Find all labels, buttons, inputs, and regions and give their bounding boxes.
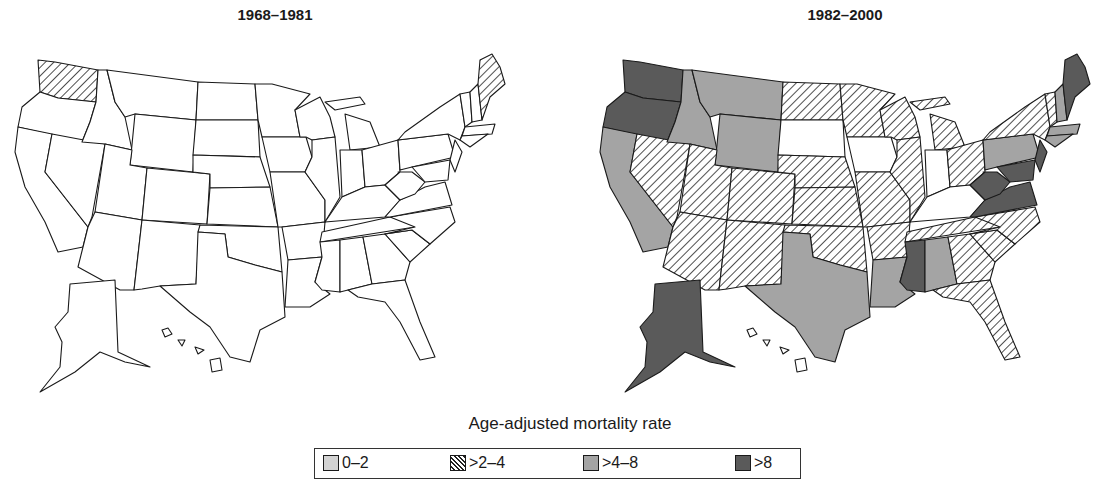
- state-AK: [625, 280, 735, 392]
- swatch-light-gray-icon: [323, 455, 339, 471]
- state-KS: [207, 187, 278, 227]
- state-NY: [398, 94, 465, 140]
- legend-label: >4–8: [602, 454, 638, 472]
- state-ME: [478, 54, 505, 120]
- state-FL: [348, 280, 435, 360]
- state-AR: [867, 222, 910, 260]
- swatch-dark-gray-icon: [735, 455, 751, 471]
- state-CT-RI: [460, 134, 488, 147]
- state-AR: [282, 222, 325, 260]
- state-IA: [262, 137, 312, 172]
- map-title-1968-1981: 1968–1981: [200, 6, 350, 23]
- legend-label: >8: [754, 454, 772, 472]
- state-SD: [778, 120, 845, 157]
- legend-title: Age-adjusted mortality rate: [400, 414, 740, 434]
- legend-label: 0–2: [342, 454, 369, 472]
- us-map-1982-2000: [585, 22, 1107, 402]
- legend-item-gt-8: >8: [735, 454, 772, 472]
- legend-item-2-4: >2–4: [450, 454, 505, 472]
- swatch-medium-gray-icon: [583, 455, 599, 471]
- state-CO: [142, 168, 210, 224]
- state-SD: [193, 120, 260, 157]
- us-map-1968-1981: [0, 22, 540, 402]
- state-FL: [933, 280, 1020, 360]
- state-CT-RI: [1045, 134, 1073, 147]
- state-ND: [196, 82, 258, 120]
- swatch-hatch-icon: [450, 455, 466, 471]
- state-CO: [727, 168, 795, 224]
- legend-item-4-8: >4–8: [583, 454, 638, 472]
- state-HI: [747, 328, 807, 372]
- state-WY: [715, 114, 781, 172]
- state-WY: [130, 114, 196, 172]
- state-KS: [792, 187, 863, 227]
- state-NY: [983, 94, 1050, 140]
- legend-item-0-2: 0–2: [323, 454, 369, 472]
- legend: 0–2 >2–4 >4–8 >8: [314, 448, 801, 479]
- state-ND: [781, 82, 843, 120]
- state-IA: [847, 137, 897, 172]
- state-NM: [134, 220, 200, 290]
- legend-label: >2–4: [469, 454, 505, 472]
- state-HI: [162, 328, 222, 372]
- map-title-1982-2000: 1982–2000: [770, 6, 920, 23]
- state-ME: [1063, 54, 1090, 120]
- state-AK: [40, 280, 150, 392]
- state-NM: [719, 220, 785, 290]
